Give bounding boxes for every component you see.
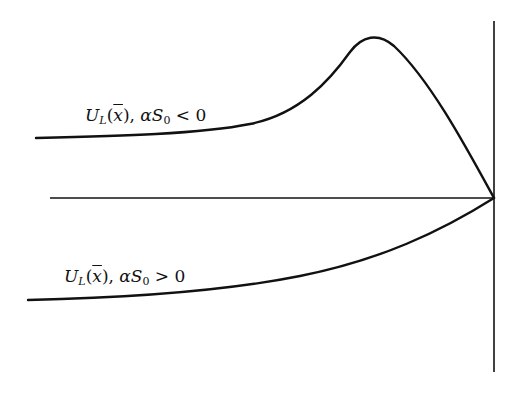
label-func-subscript: L [99,114,106,127]
label-func: U [85,105,99,125]
label-func-subscript: L [78,275,85,288]
potential-diagram [0,0,522,394]
label-s: S [131,266,143,286]
label-separator: , [109,266,120,286]
label-func: U [64,266,78,286]
upper-curve-label: UL(x), αS0 < 0 [85,107,206,126]
label-s: S [152,105,164,125]
label-alpha: α [119,266,130,286]
label-separator: , [130,105,141,125]
lower-curve-label: UL(x), αS0 > 0 [64,268,185,287]
label-alpha: α [140,105,151,125]
label-arg: x [113,105,123,125]
label-arg: x [92,266,102,286]
label-relation: > 0 [149,266,185,286]
label-relation: < 0 [170,105,206,125]
